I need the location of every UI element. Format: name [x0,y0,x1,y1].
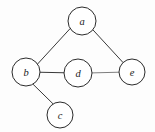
node-label-b: b [23,67,28,78]
node-label-c: c [58,110,63,121]
graph-diagram: abdec [0,0,155,132]
node-layer: abdec [12,7,145,128]
graph-node-d: d [64,59,92,87]
node-label-a: a [79,16,84,27]
graph-edge-b-c [33,84,53,104]
graph-canvas: abdec [0,0,155,132]
node-label-e: e [130,67,135,78]
graph-edge-d-e [92,72,119,73]
node-label-d: d [75,68,81,79]
graph-node-a: a [68,7,96,35]
graph-edge-a-e [93,30,123,63]
graph-edge-b-d [40,72,64,73]
graph-node-c: c [47,102,73,128]
graph-node-b: b [12,58,40,86]
graph-edge-a-b [37,29,70,65]
graph-node-e: e [119,59,145,85]
